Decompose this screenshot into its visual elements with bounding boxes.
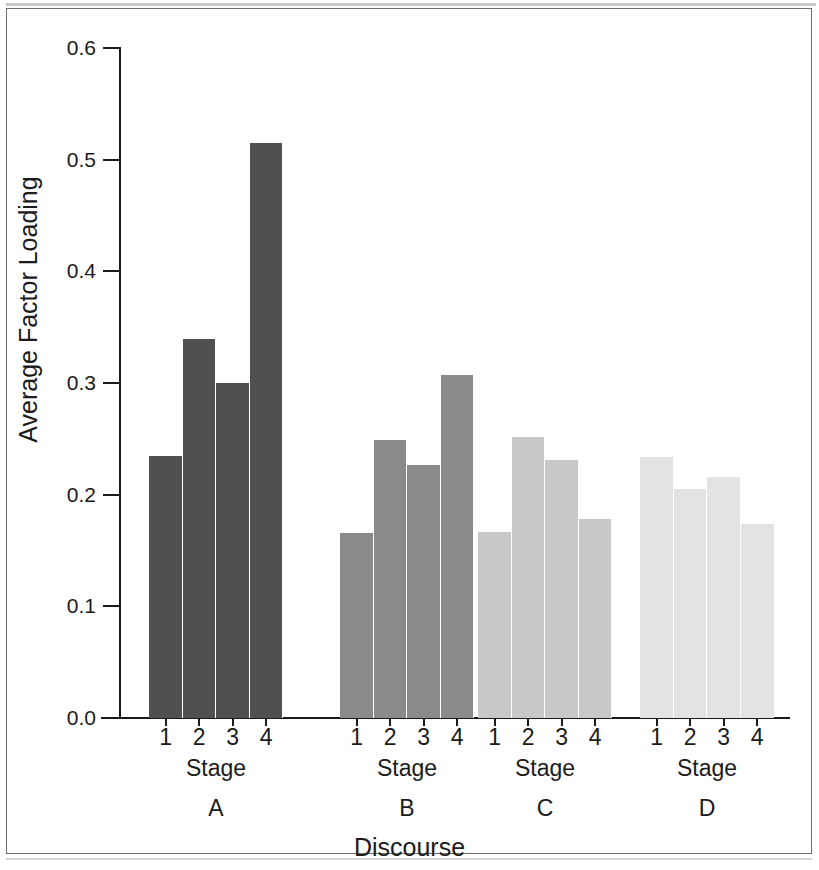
bar bbox=[707, 477, 741, 718]
x-tick-label: 4 bbox=[260, 724, 273, 751]
group-discourse-label: B bbox=[399, 795, 414, 822]
x-tick-label: 1 bbox=[650, 724, 663, 751]
bar bbox=[640, 457, 674, 718]
x-tick-label: 2 bbox=[384, 724, 397, 751]
x-tick-label: 2 bbox=[684, 724, 697, 751]
group-stage-label: Stage bbox=[186, 755, 246, 782]
bar bbox=[741, 524, 775, 718]
y-tick-mark bbox=[103, 382, 120, 384]
y-axis-title: Average Factor Loading bbox=[14, 50, 43, 570]
bar bbox=[216, 383, 250, 718]
y-tick-mark bbox=[103, 159, 120, 161]
x-tick-label: 1 bbox=[350, 724, 363, 751]
bar bbox=[407, 465, 441, 718]
y-tick-mark bbox=[103, 605, 120, 607]
group-discourse-label: A bbox=[208, 795, 223, 822]
bar bbox=[478, 532, 512, 718]
y-tick-label: 0.3 bbox=[38, 371, 96, 395]
y-tick-label: 0.4 bbox=[38, 259, 96, 283]
x-axis-title: Discourse bbox=[0, 833, 819, 862]
group-discourse-label: C bbox=[537, 795, 554, 822]
x-tick-label: 4 bbox=[751, 724, 764, 751]
bar bbox=[183, 339, 217, 718]
y-tick-mark bbox=[103, 270, 120, 272]
bar bbox=[374, 440, 408, 718]
bar bbox=[579, 519, 613, 718]
group-stage-label: Stage bbox=[515, 755, 575, 782]
x-tick-label: 4 bbox=[589, 724, 602, 751]
y-tick-label: 0.6 bbox=[38, 36, 96, 60]
x-tick-label: 3 bbox=[417, 724, 430, 751]
y-tick-label: 0.2 bbox=[38, 483, 96, 507]
bar bbox=[441, 375, 475, 718]
figure-root: 0.00.10.20.30.40.50.6 Average Factor Loa… bbox=[0, 0, 819, 870]
y-tick-mark bbox=[103, 717, 120, 719]
bar bbox=[512, 437, 546, 718]
frame-top-edge bbox=[6, 3, 816, 6]
bar bbox=[340, 533, 374, 718]
bar bbox=[674, 489, 708, 718]
group-discourse-label: D bbox=[699, 795, 716, 822]
bar bbox=[250, 143, 284, 718]
x-tick-label: 3 bbox=[555, 724, 568, 751]
x-tick-label: 2 bbox=[193, 724, 206, 751]
x-tick-label: 4 bbox=[451, 724, 464, 751]
x-tick-label: 3 bbox=[226, 724, 239, 751]
y-tick-mark bbox=[103, 47, 120, 49]
x-tick-label: 2 bbox=[522, 724, 535, 751]
y-tick-label: 0.5 bbox=[38, 148, 96, 172]
x-tick-label: 1 bbox=[159, 724, 172, 751]
y-tick-label: 0.1 bbox=[38, 594, 96, 618]
bar bbox=[149, 456, 183, 718]
group-stage-label: Stage bbox=[377, 755, 437, 782]
group-stage-label: Stage bbox=[677, 755, 737, 782]
x-tick-label: 3 bbox=[717, 724, 730, 751]
bar bbox=[545, 460, 579, 718]
y-tick-label: 0.0 bbox=[38, 706, 96, 730]
y-tick-mark bbox=[103, 494, 120, 496]
x-tick-label: 1 bbox=[488, 724, 501, 751]
